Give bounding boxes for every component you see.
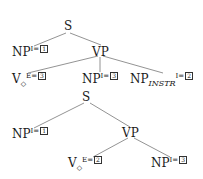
diamond-icon: ◇ [77,164,82,172]
tree2-vp-node: VP [122,127,139,139]
tree2-verb-node: V◇E=2 [68,157,102,171]
tree1-object-cat: NP [82,72,101,86]
equals-sign: = [33,45,39,53]
tree2-subject-np-node: NPI=1 [12,128,48,142]
equals-sign: = [87,156,93,164]
tree1-verb-node: V◇E=3 [12,73,46,87]
tree1-subject-np-node: NPI=1 [12,46,48,60]
tree1-s-node: S [64,20,72,32]
tree2-verb-feature: E=2 [82,156,102,164]
tree2-s-node: S [82,91,90,103]
tree1-verb-feature: E=3 [26,72,46,80]
tree1-instr-subscript: INSTR [149,79,176,88]
equals-sign: = [31,72,37,80]
tree1-instr-feature: I=2 [176,72,193,80]
tree2-vp-label: VP [122,126,139,140]
tree2-verb-index-box: 2 [94,156,102,164]
tree1-subject-index-box: 1 [40,45,48,53]
tree1-vp-label: VP [92,45,109,59]
tree-edges [0,0,203,179]
tree2-s-label: S [82,90,90,104]
tree2-subject-feature: I=1 [31,127,48,135]
tree1-object-index-box: 3 [110,72,118,80]
tree1-instr-cat: NP [130,72,149,86]
tree2-subject-cat: NP [12,127,31,141]
tree1-object-np-node: NPI=3 [82,73,118,87]
tree1-instr-index-box: 2 [185,72,193,80]
equals-sign: = [33,127,39,135]
tree2-object-cat: NP [151,156,170,170]
tree1-instr-np-node: NPINSTRI=2 [130,73,193,87]
tree1-s-label: S [64,19,72,33]
tree1-subject-cat: NP [12,45,31,59]
tree2-verb-cat: V [68,156,77,170]
tree1-verb-index-box: 3 [38,72,46,80]
tree2-object-np-node: NPI=3 [151,157,187,171]
tree1-vp-node: VP [92,46,109,58]
equals-sign: = [178,72,184,80]
tree2-object-index-box: 3 [179,156,187,164]
equals-sign: = [103,72,109,80]
tree2-object-feature: I=3 [170,156,187,164]
tree1-object-feature: I=3 [101,72,118,80]
diamond-icon: ◇ [21,80,26,88]
tree1-verb-cat: V [12,72,21,86]
tree1-subject-feature: I=1 [31,45,48,53]
equals-sign: = [172,156,178,164]
tree2-subject-index-box: 1 [40,127,48,135]
